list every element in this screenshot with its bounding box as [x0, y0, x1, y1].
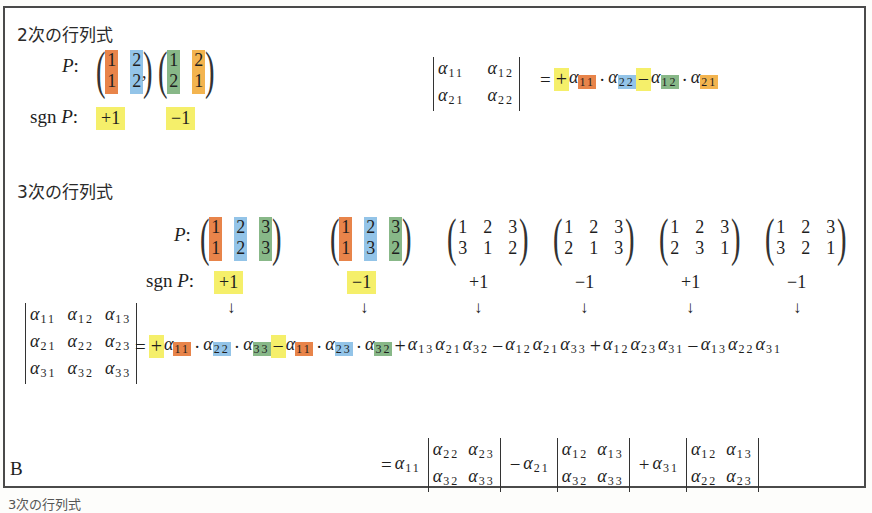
heading-3x3-determinant: 3次の行列式: [17, 178, 113, 203]
permutation-2x2-swap: ( 12 21 ): [154, 48, 219, 94]
cofactor-expansion: = α11 α22α32 α23α33 − α21 α12α32 α13α33 …: [378, 438, 765, 492]
arrow-down-icon: ↓: [227, 298, 236, 318]
permutation-3x3: ( 13 22 31 ): [761, 215, 851, 261]
p-label-3x3: P:: [174, 224, 191, 246]
caption-partial: 3次の行列式: [8, 494, 81, 513]
sign-value: −1: [570, 271, 599, 294]
minor-determinant: α12α32 α13α33: [557, 438, 630, 492]
sign-value: +1: [214, 271, 243, 294]
sign-value: +1: [96, 107, 125, 130]
determinant-2x2: α11 α21 α12 α22: [433, 57, 520, 111]
sign-value: −1: [347, 271, 376, 294]
sign-value: −1: [782, 271, 811, 294]
permutation-3x3: ( 11 23 32 ): [326, 215, 416, 261]
arrow-down-icon: ↓: [793, 298, 802, 318]
minor-determinant: α22α32 α23α33: [428, 438, 501, 492]
arrow-down-icon: ↓: [580, 298, 589, 318]
perm-column-2: 21: [192, 50, 205, 94]
permutation-3x3: ( 13 21 32 ): [443, 215, 533, 261]
p-label-2x2: P:: [62, 55, 79, 77]
sign-value: −1: [166, 107, 195, 130]
expansion-2x2: = + α11· α22 − α12· α21: [537, 66, 718, 93]
permutation-2x2-identity: ( 11 22 ): [92, 48, 157, 94]
permutation-3x3: ( 11 22 33 ): [196, 215, 286, 261]
perm-column-1: 11: [105, 50, 118, 94]
sgn-label-2x2: sgn P:: [30, 106, 78, 128]
minor-determinant: α12α22 α13α23: [686, 438, 759, 492]
arrow-down-icon: ↓: [474, 298, 483, 318]
determinant-3x3: α11 α21 α31 α12 α22 α32 α13 α23 α33: [25, 303, 137, 384]
arrow-down-icon: ↓: [360, 298, 369, 318]
expansion-3x3: = + α11· α22· α33 − α11· α23· α32 + α13α…: [132, 333, 783, 360]
perm-column-1: 12: [167, 50, 180, 94]
separator-comma: ,: [142, 62, 147, 83]
permutation-3x3: ( 12 23 31 ): [655, 215, 745, 261]
arrow-down-icon: ↓: [686, 298, 695, 318]
sgn-label-3x3: sgn P:: [146, 270, 194, 292]
permutation-3x3: ( 12 21 33 ): [549, 215, 639, 261]
figure-label: B: [10, 458, 23, 480]
sign-value: +1: [676, 271, 705, 294]
sign-value: +1: [464, 271, 493, 294]
